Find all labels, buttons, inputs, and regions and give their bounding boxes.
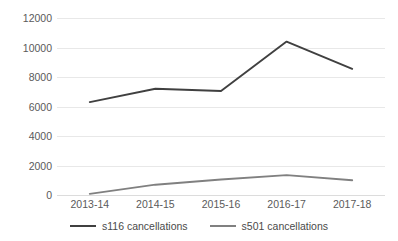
series-layer <box>57 18 385 195</box>
x-axis-tick-label: 2015-16 <box>202 198 241 210</box>
y-axis-tick-label: 6000 <box>0 102 52 113</box>
y-axis-labels: 020004000600080001000012000 <box>0 18 52 195</box>
legend-line-icon <box>210 225 236 227</box>
x-axis-tick-label: 2013-14 <box>71 198 110 210</box>
y-axis-tick-label: 8000 <box>0 72 52 83</box>
x-axis-tick-label: 2014-15 <box>136 198 175 210</box>
series-line <box>90 175 352 194</box>
x-axis-tick-label: 2016-17 <box>267 198 306 210</box>
y-axis-tick-label: 10000 <box>0 43 52 54</box>
y-axis-tick-label: 0 <box>0 190 52 201</box>
legend-item-s501[interactable]: s501 cancellations <box>210 220 328 232</box>
line-chart: 020004000600080001000012000 2013-142014-… <box>0 0 398 241</box>
plot-area <box>57 18 385 195</box>
series-line <box>90 42 352 102</box>
y-axis-tick-label: 12000 <box>0 13 52 24</box>
y-axis-tick-label: 4000 <box>0 131 52 142</box>
legend-item-label: s501 cancellations <box>242 220 328 232</box>
legend-line-icon <box>70 225 96 227</box>
x-axis-tick-label: 2017-18 <box>333 198 372 210</box>
chart-legend: s116 cancellations s501 cancellations <box>0 216 398 236</box>
gridline <box>57 195 385 196</box>
legend-item-s116[interactable]: s116 cancellations <box>70 220 188 232</box>
x-axis-labels: 2013-142014-152015-162016-172017-18 <box>57 198 385 214</box>
legend-item-label: s116 cancellations <box>102 220 188 232</box>
y-axis-tick-label: 2000 <box>0 161 52 172</box>
